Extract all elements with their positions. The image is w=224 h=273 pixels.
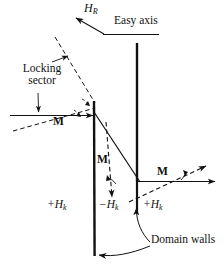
easy-axis-label: Easy axis xyxy=(114,14,158,26)
hk-right-symbol: H xyxy=(151,198,159,210)
hk-middle-label: −Hk xyxy=(99,198,119,212)
h-r-label: HR xyxy=(84,2,98,17)
locking-sector-leader-arrow xyxy=(38,93,39,112)
angle-arc-lower-tip xyxy=(76,112,81,117)
hk-right-label: +Hk xyxy=(143,198,163,212)
hk-middle-symbol: H xyxy=(107,198,115,210)
locking-sector-label: Locking sector xyxy=(12,62,72,86)
domain-walls-leader-left xyxy=(99,246,150,256)
angle-arc-upper-tip xyxy=(85,101,90,106)
domain-walls-leader-right xyxy=(136,208,150,242)
right-magnetization-group xyxy=(129,166,215,202)
h-r-symbol: H xyxy=(84,1,93,15)
hk-right-sign: + xyxy=(143,198,151,210)
domain-walls-leaders xyxy=(99,208,150,256)
domain-walls-label: Domain walls xyxy=(151,233,215,245)
hk-middle-subscript: k xyxy=(115,203,118,212)
hk-middle-sign: − xyxy=(99,198,107,210)
hk-left-subscript: k xyxy=(63,203,66,212)
h-r-arrow xyxy=(76,18,104,34)
locking-sector-line2: sector xyxy=(12,74,72,86)
hk-left-sign: + xyxy=(47,198,55,210)
locking-sector-line1: Locking xyxy=(12,62,72,74)
figure-canvas: HR Easy axis Locking sector M M M +Hk −H… xyxy=(0,0,224,273)
m-left-label: M xyxy=(53,115,64,127)
m-middle-tilted-line xyxy=(94,112,140,182)
m-middle-label: M xyxy=(97,153,108,165)
hk-left-symbol: H xyxy=(55,198,63,210)
h-r-subscript: R xyxy=(93,7,98,16)
left-domain-wall xyxy=(94,101,95,256)
hk-left-label: +Hk xyxy=(47,198,67,212)
hk-right-subscript: k xyxy=(159,203,162,212)
m-right-label: M xyxy=(157,165,168,177)
